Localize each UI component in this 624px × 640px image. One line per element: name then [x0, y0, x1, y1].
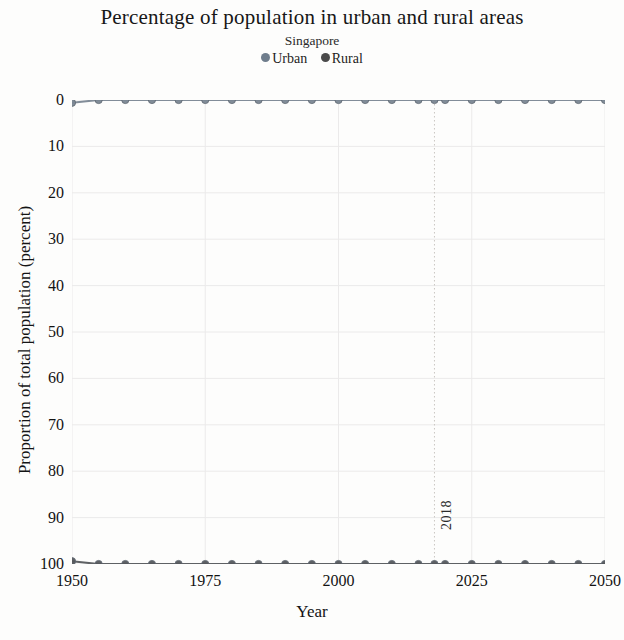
x-axis-tick-1975: 1975 [189, 572, 221, 590]
reference-line-label: 2018 [439, 500, 455, 530]
gridlines [72, 100, 605, 564]
chart-page: Percentage of population in urban and ru… [0, 0, 624, 640]
legend-marker-rural-icon [321, 53, 330, 62]
legend-item-urban[interactable]: Urban [261, 50, 307, 67]
x-axis-title: Year [0, 602, 624, 622]
legend-label-rural: Rural [332, 51, 363, 66]
x-axis-tick-2025: 2025 [456, 572, 488, 590]
chart-legend: Urban Rural [0, 50, 624, 67]
legend-item-rural[interactable]: Rural [321, 50, 363, 67]
chart-subtitle: Singapore [0, 33, 624, 49]
x-axis-tick-2000: 2000 [323, 572, 355, 590]
x-axis-tick-1950: 1950 [56, 572, 88, 590]
y-axis-tick-100: 0 [20, 91, 64, 109]
legend-marker-urban-icon [261, 53, 270, 62]
chart-title: Percentage of population in urban and ru… [0, 5, 624, 30]
y-axis-tick-0: 100 [20, 555, 64, 573]
plot-area [72, 100, 605, 564]
legend-label-urban: Urban [272, 51, 307, 66]
x-axis-tick-2050: 2050 [589, 572, 621, 590]
y-axis-title: Proportion of total population (percent) [15, 140, 35, 540]
x-axis-tick-labels: 19501975200020252050 [0, 572, 624, 600]
